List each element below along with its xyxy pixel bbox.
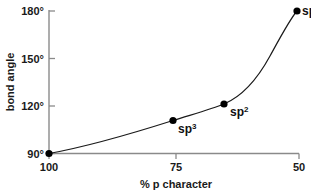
y-tick-label-120: 120° xyxy=(21,100,44,112)
data-point-sp2 xyxy=(220,100,227,107)
data-point-label-sp: sp xyxy=(302,4,311,18)
y-tick-label-150: 150° xyxy=(21,53,44,65)
y-tick-label-90: 90° xyxy=(27,148,44,160)
data-curve xyxy=(49,11,297,154)
x-axis-title: % p character xyxy=(140,178,213,190)
x-tick-label-75: 75 xyxy=(170,161,182,173)
chart-canvas: 180° 150° 120° 90° 100 75 50 % p charact… xyxy=(0,0,311,192)
data-point-sp xyxy=(293,7,300,14)
y-tick-label-180: 180° xyxy=(21,5,44,17)
data-point-origin xyxy=(45,150,52,157)
x-tick-label-100: 100 xyxy=(40,161,58,173)
y-axis-title: bond angle xyxy=(4,53,16,112)
chart-figure: 180° 150° 120° 90° 100 75 50 % p charact… xyxy=(0,0,311,192)
data-point-sp3 xyxy=(169,117,176,124)
data-point-label-sp2: sp2 xyxy=(230,105,249,119)
x-tick-label-50: 50 xyxy=(293,161,305,173)
data-point-label-sp3: sp3 xyxy=(178,122,197,136)
